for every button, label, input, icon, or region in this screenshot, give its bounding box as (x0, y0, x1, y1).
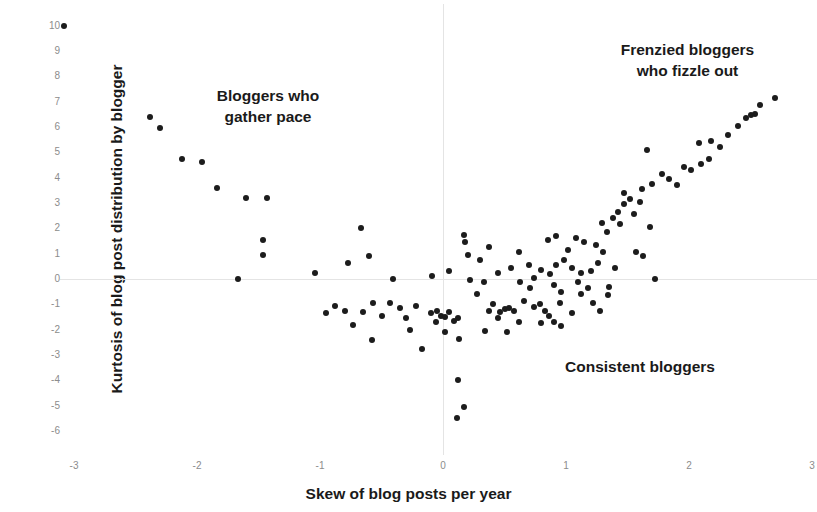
scatter-point (674, 182, 680, 188)
scatter-point (545, 237, 551, 243)
annotation-frenzied-bloggers: Frenzied bloggers who fizzle out (585, 40, 790, 82)
scatter-point (179, 156, 185, 162)
scatter-point (553, 262, 559, 268)
scatter-point (621, 201, 627, 207)
scatter-point (332, 303, 338, 309)
y-tick-label: 0 (36, 273, 60, 284)
y-tick-label: -4 (36, 374, 60, 385)
scatter-point (585, 285, 591, 291)
scatter-point (531, 275, 537, 281)
scatter-point (551, 282, 557, 288)
scatter-point (482, 328, 488, 334)
y-tick-label: 2 (36, 222, 60, 233)
scatter-point (681, 164, 687, 170)
scatter-point (595, 260, 601, 266)
scatter-point (647, 224, 653, 230)
x-tick-label: 0 (428, 460, 458, 471)
scatter-point (615, 209, 621, 215)
scatter-point (772, 95, 778, 101)
scatter-point (604, 229, 610, 235)
scatter-point (546, 313, 552, 319)
y-tick-label: -3 (36, 349, 60, 360)
scatter-point (455, 315, 461, 321)
scatter-point (666, 176, 672, 182)
scatter-point (260, 252, 266, 258)
scatter-point (531, 304, 537, 310)
scatter-point (486, 308, 492, 314)
scatter-point (527, 285, 533, 291)
scatter-point (511, 308, 517, 314)
scatter-point (593, 242, 599, 248)
scatter-point (312, 270, 318, 276)
y-tick-label: -5 (36, 400, 60, 411)
scatter-point (633, 249, 639, 255)
y-tick-label: 10 (36, 20, 60, 31)
scatter-point (561, 257, 567, 263)
scatter-point (390, 276, 396, 282)
scatter-point (637, 199, 643, 205)
scatter-point (366, 253, 372, 259)
scatter-point (606, 284, 612, 290)
scatter-point (659, 171, 665, 177)
scatter-point (621, 190, 627, 196)
x-tick-label: 3 (797, 460, 817, 471)
scatter-chart: Kurtosis of blog post distribution by bl… (0, 0, 817, 512)
scatter-point (508, 265, 514, 271)
scatter-point (428, 310, 434, 316)
y-tick-label: 6 (36, 121, 60, 132)
scatter-point (370, 300, 376, 306)
scatter-point (403, 315, 409, 321)
scatter-point (578, 291, 584, 297)
scatter-point (481, 279, 487, 285)
scatter-point (379, 313, 385, 319)
scatter-point (407, 327, 413, 333)
x-tick-label: 1 (551, 460, 581, 471)
scatter-point (627, 196, 633, 202)
scatter-point (639, 186, 645, 192)
x-tick-label: -2 (182, 460, 212, 471)
scatter-point (157, 125, 163, 131)
scatter-point (575, 279, 581, 285)
y-tick-label: 3 (36, 197, 60, 208)
scatter-point (516, 319, 522, 325)
scatter-point (725, 132, 731, 138)
scatter-point (600, 249, 606, 255)
scatter-point (590, 300, 596, 306)
scatter-point (652, 276, 658, 282)
scatter-point (454, 415, 460, 421)
scatter-point (605, 292, 611, 298)
scatter-point (631, 211, 637, 217)
scatter-point (573, 235, 579, 241)
y-tick-label: 7 (36, 96, 60, 107)
scatter-point (486, 244, 492, 250)
scatter-point (516, 249, 522, 255)
scatter-point (495, 270, 501, 276)
scatter-point (612, 265, 618, 271)
scatter-point (504, 329, 510, 335)
scatter-point (640, 253, 646, 259)
scatter-point (538, 267, 544, 273)
x-tick-label: -3 (59, 460, 89, 471)
y-tick-label: 9 (36, 45, 60, 56)
scatter-point (581, 239, 587, 245)
scatter-point (461, 404, 467, 410)
scatter-point (446, 268, 452, 274)
scatter-point (569, 310, 575, 316)
scatter-point (461, 232, 467, 238)
scatter-point (264, 195, 270, 201)
scatter-point (419, 346, 425, 352)
scatter-point (565, 247, 571, 253)
zero-line-vertical (443, 4, 444, 455)
scatter-point (521, 298, 527, 304)
scatter-point (526, 262, 532, 268)
scatter-point (558, 289, 564, 295)
scatter-point (350, 322, 356, 328)
scatter-point (547, 271, 553, 277)
scatter-point (752, 111, 758, 117)
scatter-point (360, 309, 366, 315)
scatter-point (588, 268, 594, 274)
scatter-point (61, 23, 67, 29)
scatter-point (467, 277, 473, 283)
scatter-point (735, 123, 741, 129)
scatter-point (688, 167, 694, 173)
